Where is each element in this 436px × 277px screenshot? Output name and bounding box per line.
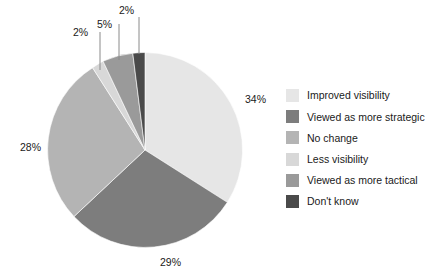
- legend-item-less-visibility[interactable]: Less visibility: [286, 149, 436, 170]
- pie-label-dont-know: 2%: [119, 4, 134, 16]
- legend-item-label: Viewed as more tactical: [307, 175, 418, 186]
- legend-item-label: No change: [307, 133, 358, 144]
- pie-label-no-change: 28%: [20, 141, 41, 153]
- legend-swatch-icon: [286, 89, 299, 102]
- legend-item-viewed-as-more-strategic[interactable]: Viewed as more strategic: [286, 106, 436, 127]
- legend-swatch-icon: [286, 131, 299, 144]
- pie-label-less-visibility: 2%: [73, 26, 88, 38]
- legend-item-label: Less visibility: [307, 154, 368, 165]
- legend-item-improved-visibility[interactable]: Improved visibility: [286, 85, 436, 106]
- legend-item-dont-know[interactable]: Don't know: [286, 191, 436, 212]
- legend-swatch-icon: [286, 153, 299, 166]
- pie-chart-figure: 34% 29% 28% 2% 5% 2% Improved visibility…: [0, 0, 436, 277]
- legend-swatch-icon: [286, 110, 299, 123]
- legend-swatch-icon: [286, 195, 299, 208]
- legend-item-label: Improved visibility: [307, 90, 390, 101]
- pie-label-improved-visibility: 34%: [245, 93, 266, 105]
- legend-item-no-change[interactable]: No change: [286, 127, 436, 148]
- legend-item-viewed-as-more-tactical[interactable]: Viewed as more tactical: [286, 170, 436, 191]
- pie-label-viewed-as-more-tactical: 5%: [97, 18, 112, 30]
- legend-item-label: Don't know: [307, 196, 359, 207]
- pie-label-viewed-as-more-strategic: 29%: [160, 256, 181, 268]
- legend-item-label: Viewed as more strategic: [307, 112, 425, 123]
- chart-legend: Improved visibility Viewed as more strat…: [286, 85, 436, 212]
- legend-swatch-icon: [286, 174, 299, 187]
